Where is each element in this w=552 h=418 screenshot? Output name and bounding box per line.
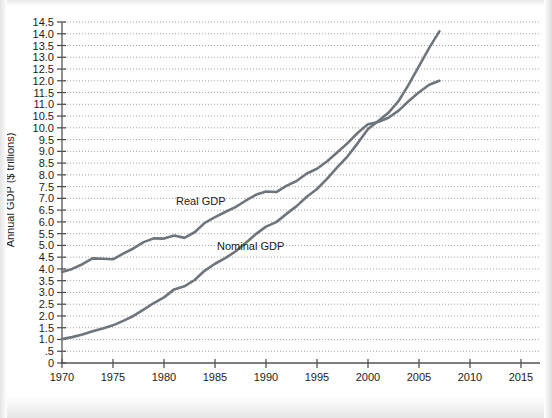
x-tick-label: 2005	[407, 371, 431, 383]
x-tick-label: 1995	[305, 371, 329, 383]
y-tick-label: 8.5	[39, 157, 54, 169]
x-tick-label: 2010	[458, 371, 482, 383]
y-tick-label: 6.0	[39, 216, 54, 228]
x-tick-label: 2015	[509, 371, 533, 383]
y-tick-label: 13.5	[33, 40, 54, 52]
series-inline-labels-group: Real GDPNominal GDP	[176, 195, 284, 252]
y-tick-label: 0	[48, 357, 54, 369]
y-tick-label: 4.5	[39, 251, 54, 263]
page-edge-left	[0, 0, 7, 418]
page-edge-top	[0, 0, 552, 6]
y-tick-label: 11.0	[33, 98, 54, 110]
y-tick-label: 14.5	[33, 16, 54, 28]
x-tick-label: 1990	[254, 371, 278, 383]
y-tick-label: 7.5	[39, 181, 54, 193]
y-tick-label: 1.5	[39, 322, 54, 334]
y-tick-label: 3.5	[39, 275, 54, 287]
chart-canvas: 0.51.01.52.02.53.03.54.04.55.05.56.06.57…	[0, 0, 552, 418]
y-tick-label: 5.0	[39, 239, 54, 251]
y-tick-label: .5	[45, 345, 54, 357]
page-edge-right	[544, 0, 552, 418]
y-tick-label: 11.5	[33, 87, 54, 99]
y-tick-label: 10.0	[33, 122, 54, 134]
y-tick-label: 13.0	[33, 51, 54, 63]
series-label-real-gdp: Real GDP	[176, 195, 226, 207]
axis-lines-group	[62, 22, 540, 363]
y-tick-label: 12.5	[33, 63, 54, 75]
page-edge-bottom	[0, 396, 552, 418]
y-tick-label: 2.5	[39, 298, 54, 310]
y-tick-label: 6.5	[39, 204, 54, 216]
x-tick-label: 1985	[203, 371, 227, 383]
x-tick-label: 2000	[356, 371, 380, 383]
x-tick-label: 1975	[101, 371, 125, 383]
y-tick-label: 2.0	[39, 310, 54, 322]
y-tick-label: 3.0	[39, 286, 54, 298]
y-tick-label: 9.0	[39, 145, 54, 157]
y-tick-label: 8.0	[39, 169, 54, 181]
gridlines-group	[64, 22, 540, 351]
y-tick-label: 10.5	[33, 110, 54, 122]
gdp-line-chart-figure: 0.51.01.52.02.53.03.54.04.55.05.56.06.57…	[0, 0, 552, 418]
y-tick-label: 14.0	[33, 28, 54, 40]
y-tick-label: 12.0	[33, 75, 54, 87]
y-tick-label: 1.0	[39, 333, 54, 345]
y-tick-label: 5.5	[39, 228, 54, 240]
x-tick-label: 1980	[152, 371, 176, 383]
x-tick-label: 1970	[50, 371, 74, 383]
series-label-nominal-gdp: Nominal GDP	[217, 240, 284, 252]
y-tick-label: 4.0	[39, 263, 54, 275]
y-tick-label: 9.5	[39, 134, 54, 146]
y-tick-label: 7.0	[39, 192, 54, 204]
y-axis-ticks-group: 0.51.01.52.02.53.03.54.04.55.05.56.06.57…	[33, 16, 66, 369]
